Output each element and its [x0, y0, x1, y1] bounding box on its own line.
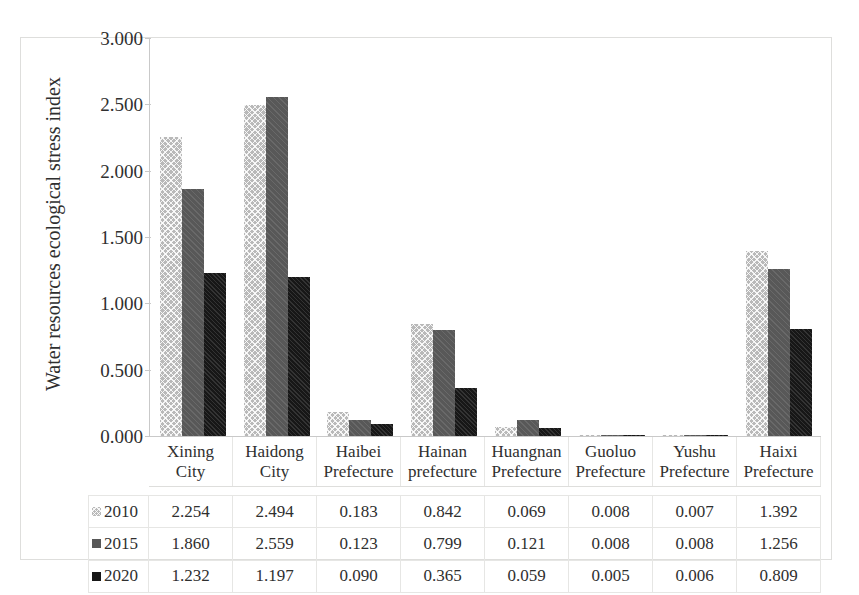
y-axis-tick-label: 2.000 — [56, 161, 143, 180]
bar-2020 — [288, 277, 310, 436]
category-label-line: Prefecture — [576, 462, 646, 482]
category-label-line: Prefecture — [492, 462, 562, 482]
bar-group-bars — [402, 38, 486, 436]
bar-group — [737, 38, 821, 436]
table-row: 20151.8602.5590.1230.7990.1210.0080.0081… — [88, 528, 821, 560]
legend-entry-2010[interactable]: 2010 — [88, 496, 149, 527]
plot-area — [149, 38, 821, 436]
category-label-line: Haidong — [245, 442, 304, 462]
y-axis-tick-mark — [145, 38, 151, 39]
y-axis-tick-mark — [145, 104, 151, 105]
table-cell: 0.121 — [485, 528, 569, 559]
bar-2015 — [433, 330, 455, 436]
table-cell: 0.365 — [401, 561, 485, 592]
chart-data-table: 20102.2542.4940.1830.8420.0690.0080.0071… — [88, 495, 821, 593]
x-axis-category-label: GuoluoPrefecture — [568, 437, 652, 486]
bar-2010 — [495, 427, 517, 436]
y-axis-tick-mark — [145, 171, 151, 172]
table-cell: 0.090 — [317, 561, 401, 592]
bar-group — [402, 38, 486, 436]
y-axis-tick-mark — [145, 370, 151, 371]
table-cell: 0.005 — [569, 561, 653, 592]
x-axis-category-label: Hainanprefecture — [400, 437, 484, 486]
y-axis-tick-label: 0.000 — [56, 427, 143, 446]
table-cell: 0.069 — [485, 496, 569, 527]
table-cell: 1.860 — [149, 528, 233, 559]
table-cell: 0.008 — [569, 528, 653, 559]
bar-2010 — [160, 137, 182, 436]
category-label-line: City — [176, 462, 205, 482]
table-cell: 0.008 — [569, 496, 653, 527]
table-cell: 0.799 — [401, 528, 485, 559]
legend-swatch-icon — [92, 572, 101, 581]
x-axis-category-label: XiningCity — [149, 437, 232, 486]
legend-series-label: 2020 — [104, 566, 138, 586]
y-axis-tick-label: 2.500 — [56, 95, 143, 114]
x-axis-category-label: HaidongCity — [232, 437, 316, 486]
table-row: 20201.2321.1970.0900.3650.0590.0050.0060… — [88, 561, 821, 593]
bar-2015 — [349, 420, 371, 436]
bar-group-bars — [486, 38, 570, 436]
bar-groups-layer — [151, 38, 821, 436]
bar-2010 — [244, 105, 266, 436]
bar-2020 — [371, 424, 393, 436]
legend-entry-2015[interactable]: 2015 — [88, 528, 149, 559]
bar-group-bars — [319, 38, 403, 436]
x-axis-category-label: YushuPrefecture — [652, 437, 736, 486]
table-cell: 0.008 — [653, 528, 737, 559]
table-cell: 1.232 — [149, 561, 233, 592]
legend-series-label: 2015 — [104, 534, 138, 554]
bar-2015 — [182, 189, 204, 436]
table-row: 20102.2542.4940.1830.8420.0690.0080.0071… — [88, 495, 821, 528]
y-axis-tick-label: 1.000 — [56, 294, 143, 313]
bar-group-bars — [570, 38, 654, 436]
x-axis-category-row: XiningCityHaidongCityHaibeiPrefectureHai… — [149, 437, 821, 487]
bar-group-bars — [151, 38, 235, 436]
y-axis-tick-label: 3.000 — [56, 29, 143, 48]
category-label-line: Prefecture — [660, 462, 730, 482]
table-cell: 1.197 — [233, 561, 317, 592]
table-value-cells: 1.8602.5590.1230.7990.1210.0080.0081.256 — [149, 528, 821, 559]
bar-group-bars — [235, 38, 319, 436]
legend-entry-2020[interactable]: 2020 — [88, 561, 149, 592]
y-axis-tick-mark — [145, 237, 151, 238]
x-axis-category-label: HaixiPrefecture — [736, 437, 821, 486]
category-label-line: Huangnan — [492, 442, 562, 462]
x-axis-category-label: HaibeiPrefecture — [316, 437, 400, 486]
bar-group — [486, 38, 570, 436]
category-label-line: Xining — [167, 442, 214, 462]
category-label-line: Hainan — [418, 442, 467, 462]
bar-2010 — [327, 412, 349, 436]
table-cell: 0.007 — [653, 496, 737, 527]
chart-figure-frame: Water resources ecological stress index … — [20, 37, 832, 560]
bar-group — [319, 38, 403, 436]
table-cell: 2.494 — [233, 496, 317, 527]
bar-group — [570, 38, 654, 436]
bar-2020 — [790, 329, 812, 436]
table-cell: 0.059 — [485, 561, 569, 592]
y-axis-tick-labels: 3.0002.5002.0001.5001.0000.5000.000 — [56, 38, 143, 448]
x-axis-category-label: HuangnanPrefecture — [484, 437, 568, 486]
bar-2015 — [517, 420, 539, 436]
bar-group — [654, 38, 738, 436]
bar-2020 — [455, 388, 477, 436]
table-value-cells: 1.2321.1970.0900.3650.0590.0050.0060.809 — [149, 561, 821, 592]
bar-2015 — [266, 97, 288, 436]
table-cell: 1.392 — [737, 496, 821, 527]
bar-2020 — [539, 428, 561, 436]
bar-2020 — [204, 273, 226, 436]
category-label-line: Guoluo — [585, 442, 636, 462]
bar-group — [151, 38, 235, 436]
category-label-line: Haibei — [336, 442, 381, 462]
category-label-line: Prefecture — [744, 462, 814, 482]
table-cell: 1.256 — [737, 528, 821, 559]
bar-group-bars — [654, 38, 738, 436]
table-cell: 2.254 — [149, 496, 233, 527]
category-label-line: Prefecture — [324, 462, 394, 482]
bar-2015 — [768, 269, 790, 436]
bar-2010 — [411, 324, 433, 436]
category-label-line: City — [260, 462, 289, 482]
legend-series-label: 2010 — [104, 502, 138, 522]
table-cell: 0.809 — [737, 561, 821, 592]
y-axis-tick-mark — [145, 303, 151, 304]
